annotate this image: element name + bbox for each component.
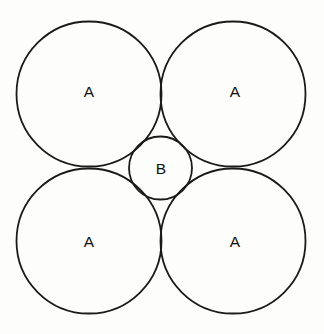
circle-label-b-center: B [156, 160, 166, 177]
circle-label-a-bottom-left: A [84, 233, 95, 250]
circle-label-a-bottom-right: A [230, 233, 241, 250]
circle-label-a-top-left: A [84, 83, 95, 100]
circle-packing-diagram: A A A A B [0, 0, 324, 334]
circle-label-a-top-right: A [230, 83, 241, 100]
diagram-canvas: A A A A B [0, 0, 324, 334]
